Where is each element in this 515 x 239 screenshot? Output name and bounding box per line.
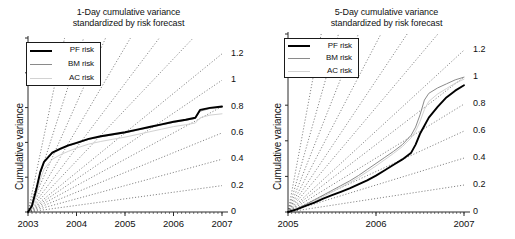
right-axis-tick-label: 0.8 [473, 98, 486, 108]
legend-label-pf: PF risk [52, 45, 96, 54]
legend-line-icon-pf [30, 46, 52, 54]
legend-label-ac: AC risk [52, 73, 96, 82]
legend-item-pf-risk: PF risk [285, 39, 358, 52]
legend-line-icon-bm [288, 54, 310, 62]
x-tick-label: 2006 [365, 218, 386, 229]
legend-item-ac-risk: AC risk [285, 64, 358, 77]
legend-line-icon-ac [30, 74, 52, 82]
figure-root: 1-Day cumulative variance standardized b… [0, 0, 515, 239]
chart-panel-5-day: 5-Day cumulative variance standardized b… [258, 0, 515, 239]
right-axis-tick-label: 0.4 [231, 153, 244, 163]
legend-line-icon-bm [30, 60, 52, 68]
x-tick-label: 2005 [114, 218, 135, 229]
legend-label-bm: BM risk [310, 53, 354, 62]
plot-area-left [0, 0, 257, 239]
right-axis-tick-label: 0.2 [231, 180, 244, 190]
legend-label-bm: BM risk [52, 59, 96, 68]
legend-left: PF risk BM risk AC risk [26, 42, 101, 86]
chart-panel-1-day: 1-Day cumulative variance standardized b… [0, 0, 257, 239]
legend-item-pf-risk: PF risk [27, 43, 100, 57]
right-axis-tick-label: 0.6 [231, 127, 244, 137]
right-axis-tick-label: 1.2 [231, 48, 244, 58]
right-axis-tick-label: 1.2 [473, 44, 486, 54]
legend-line-icon-ac [288, 67, 310, 75]
legend-line-icon-pf [288, 41, 310, 49]
right-axis-tick-label: 0.8 [231, 101, 244, 111]
legend-item-bm-risk: BM risk [285, 52, 358, 65]
right-axis-tick-label: 0.2 [473, 179, 486, 189]
legend-label-pf: PF risk [310, 41, 354, 50]
legend-right: PF risk BM risk AC risk [284, 38, 359, 78]
legend-label-ac: AC risk [310, 66, 354, 75]
right-axis-tick-label: 0.4 [473, 152, 486, 162]
right-axis-tick-label: 1 [231, 74, 236, 84]
right-axis-tick-label: 0 [231, 206, 236, 216]
x-tick-label: 2006 [163, 218, 184, 229]
right-axis-tick-label: 0.6 [473, 125, 486, 135]
legend-item-bm-risk: BM risk [27, 57, 100, 71]
x-tick-label: 2007 [453, 218, 474, 229]
x-tick-label: 2005 [277, 218, 298, 229]
x-tick-label: 2007 [211, 218, 232, 229]
y-axis-label-right: Cumulative variance [272, 103, 283, 190]
x-tick-label: 2003 [17, 218, 38, 229]
plot-area-right [258, 0, 515, 239]
right-axis-tick-label: 1 [473, 71, 478, 81]
x-tick-label: 2004 [66, 218, 87, 229]
right-axis-tick-label: 0 [473, 206, 478, 216]
legend-item-ac-risk: AC risk [27, 71, 100, 85]
